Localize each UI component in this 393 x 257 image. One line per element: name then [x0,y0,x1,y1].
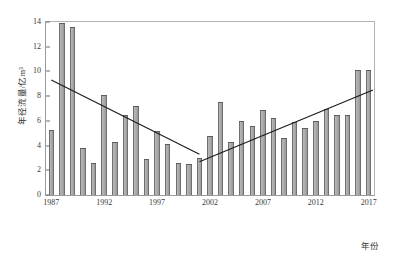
bar [112,142,118,195]
bar [59,23,65,195]
bar [154,131,160,195]
y-axis-title: 年径流量/亿m³ [15,31,27,161]
bar [123,115,129,195]
bar [324,109,330,196]
bar [70,27,76,195]
bar [197,158,203,195]
y-tick-mark [46,96,50,97]
bar [271,118,277,195]
x-tick-label: 1987 [43,195,59,207]
bar [49,130,55,195]
x-tick-label: 2002 [202,195,218,207]
y-tick-label: 2 [37,166,46,174]
bar [239,121,245,195]
bar [355,70,361,195]
bar [228,142,234,195]
bar [334,115,340,195]
y-tick-label: 10 [33,67,46,75]
plot-area: 02468101214 1987199219972002200720122017 [45,21,375,196]
y-tick-mark [46,120,50,121]
x-tick-label: 2007 [255,195,271,207]
y-tick-mark [46,22,50,23]
runoff-bar-chart: 年径流量/亿m³ 02468101214 1987199219972002200… [0,0,393,257]
x-tick-label: 1992 [96,195,112,207]
bar [292,122,298,195]
bar [165,144,171,195]
bar [302,128,308,195]
bar [176,163,182,195]
bar [80,148,86,195]
bar [218,102,224,195]
bar [366,70,372,195]
x-tick-label: 2017 [361,195,377,207]
bar [101,95,107,195]
bar [186,164,192,195]
bar [91,163,97,195]
bar [133,106,139,195]
x-tick-label: 1997 [149,195,165,207]
x-tick-label: 2012 [308,195,324,207]
y-tick-label: 6 [37,117,46,125]
y-tick-label: 12 [33,43,46,51]
y-tick-label: 8 [37,92,46,100]
bar [207,136,213,195]
y-tick-mark [46,46,50,47]
y-tick-label: 4 [37,142,46,150]
y-tick-label: 14 [33,18,46,26]
x-axis-title: 年份 [361,239,379,251]
bar [313,121,319,195]
bar [144,159,150,195]
y-tick-mark [46,71,50,72]
bar [345,115,351,195]
bar [260,110,266,195]
bar [281,138,287,195]
bar [250,126,256,195]
